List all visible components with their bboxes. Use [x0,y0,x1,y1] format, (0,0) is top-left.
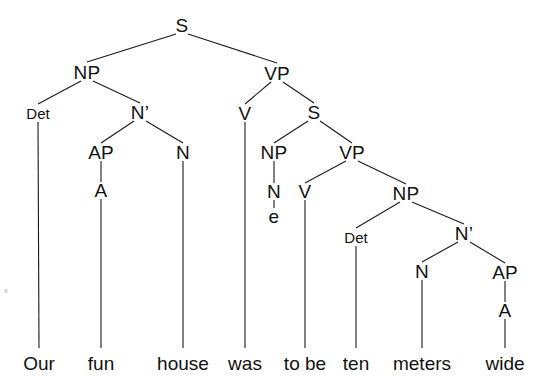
tree-node-vp1: VP [264,64,290,83]
tree-node-a1: A [95,181,108,200]
tree-node-s1: S [176,16,189,35]
tree-node-v2: V [299,182,312,201]
scan-speck-artifact [5,289,8,293]
tree-leaf-w1: Our [23,354,55,373]
tree-node-np1: NP [74,63,101,82]
tree-node-nbar2: N’ [455,224,473,243]
tree-leaf-w5: to be [284,354,326,373]
tree-node-det1: Det [26,106,49,121]
tree-node-nbar1: N’ [131,103,149,122]
tree-leaf-w3: house [157,354,209,373]
tree-node-a2: A [499,301,512,320]
tree-leaf-w4: was [228,354,262,373]
tree-node-n1: N [176,143,190,162]
tree-leaf-w8: wide [485,354,524,373]
syntax-tree-nodes: SNPVPDetN’VSAPNNPVPANVNPeDetN’NAPAOurfun… [0,0,546,390]
tree-node-det2: Det [344,230,367,245]
tree-node-np2: NP [261,143,288,162]
tree-node-ap1: AP [88,143,114,162]
tree-node-ap2: AP [492,263,518,282]
tree-node-vp2: VP [339,143,365,162]
tree-node-n2: N [267,182,281,201]
tree-leaf-w6: ten [343,354,369,373]
tree-node-np3: NP [393,184,420,203]
tree-node-v1: V [239,104,252,123]
tree-node-n3: N [415,262,429,281]
tree-node-e1: e [269,207,280,226]
tree-leaf-w2: fun [88,354,114,373]
tree-leaf-w7: meters [393,354,451,373]
tree-node-s2: S [308,103,321,122]
